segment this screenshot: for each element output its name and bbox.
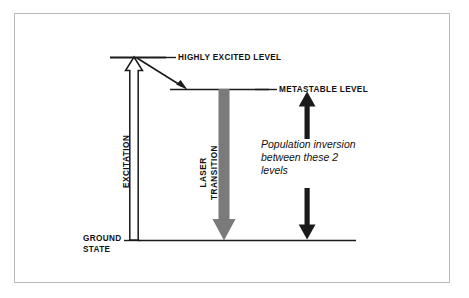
annotation-line-3: levels [261,164,288,176]
diagram-svg [0,0,469,298]
highly-excited-level-label: HIGHLY EXCITED LEVEL [178,53,281,62]
ground-state-label-line1: GROUND [83,234,122,243]
metastable-level-label: METASTABLE LEVEL [279,85,368,94]
laser-transition-label: LASER TRANSITION [198,145,220,200]
decay-arrow [137,58,188,90]
laser-transition-label-line1: LASER [199,157,208,187]
laser-transition-label-line2: TRANSITION [210,145,219,200]
ground-state-label: GROUND STATE [83,234,122,255]
excitation-arrow-label: EXCITATION [122,135,131,188]
figure-canvas: HIGHLY EXCITED LEVEL METASTABLE LEVEL GR… [0,0,469,298]
ground-state-label-line2: STATE [83,245,110,254]
inversion-arrow-down [299,188,316,240]
annotation-line-1: Population inversion [261,138,356,150]
annotation-line-2: between these 2 [261,151,338,163]
population-inversion-annotation: Population inversion between these 2 lev… [261,138,356,178]
inversion-arrow-up [299,92,316,140]
